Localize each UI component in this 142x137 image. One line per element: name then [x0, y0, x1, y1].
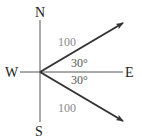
lower-vector-magnitude: 100: [58, 101, 76, 115]
east-label: E: [125, 65, 134, 80]
lower-angle-label: 30°: [71, 73, 88, 87]
north-label: N: [35, 5, 45, 20]
upper-vector-magnitude: 100: [58, 35, 76, 49]
south-label: S: [35, 124, 43, 137]
west-label: W: [5, 65, 19, 80]
upper-angle-label: 30°: [71, 56, 88, 70]
compass-vector-diagram: N S W E 100 100 30° 30°: [0, 0, 142, 137]
